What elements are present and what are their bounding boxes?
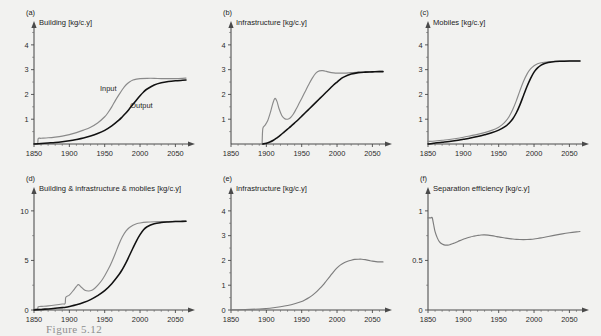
y-tick-label-f: 0.5 — [412, 256, 422, 265]
x-axis-arrow-d — [188, 307, 195, 312]
x-tick-label-b: 2000 — [329, 149, 345, 158]
panel-letter-e: (e) — [223, 174, 232, 183]
x-tick-label-e: 2050 — [364, 315, 380, 324]
y-tick-label-f: 1 — [418, 207, 422, 216]
axis-title-d: Building & infrastructure & mobiles [kg/… — [39, 184, 181, 193]
y-tick-label-e: 3 — [221, 231, 225, 240]
panel-letter-c: (c) — [420, 8, 429, 17]
chart-svg-e: (e)Infrastructure [kg/c.y]18501900195020… — [205, 170, 393, 330]
x-tick-label-d: 2050 — [167, 315, 183, 324]
x-axis-arrow-c — [582, 141, 589, 146]
x-tick-label-f: 2050 — [561, 315, 577, 324]
x-tick-label-a: 1950 — [96, 149, 112, 158]
curve-label-output: Output — [130, 101, 152, 110]
chart-svg-f: (f)Separation efficiency [kg/c.y]1850190… — [402, 170, 590, 330]
y-tick-label-d: 10 — [20, 207, 28, 216]
x-tick-label-f: 1950 — [490, 315, 506, 324]
y-tick-label-d: 5 — [24, 256, 28, 265]
series-input-d — [34, 221, 186, 309]
y-tick-label-b: 3 — [221, 65, 225, 74]
y-tick-label-c: 4 — [418, 41, 422, 50]
panel-letter-f: (f) — [420, 174, 427, 183]
x-tick-label-a: 1850 — [26, 149, 42, 158]
series-input-c — [428, 61, 580, 142]
x-tick-label-b: 1900 — [258, 149, 274, 158]
x-tick-label-c: 1850 — [420, 149, 436, 158]
axis-title-c: Mobiles [kg/c.y] — [433, 18, 485, 27]
y-tick-label-b: 4 — [221, 41, 225, 50]
y-tick-label-e: 1 — [221, 281, 225, 290]
panel-letter-d: (d) — [26, 174, 35, 183]
axis-title-a: Building [kg/c.y] — [39, 18, 92, 27]
x-tick-label-a: 2050 — [167, 149, 183, 158]
figure-caption: Figure 5.12 — [46, 323, 102, 336]
y-tick-label-d: 0 — [24, 306, 28, 315]
y-axis-arrow-f — [425, 187, 430, 194]
axis-title-b: Infrastructure [kg/c.y] — [236, 18, 307, 27]
x-tick-label-c: 1950 — [490, 149, 506, 158]
axis-title-f: Separation efficiency [kg/c.y] — [433, 184, 530, 193]
chart-svg-d: (d)Building & infrastructure & mobiles [… — [8, 170, 196, 330]
chart-svg-a: (a)Building [kg/c.y]18501900195020002050… — [8, 4, 196, 164]
y-tick-label-c: 3 — [418, 65, 422, 74]
series-output-c — [428, 61, 580, 144]
y-tick-label-a: 3 — [24, 65, 28, 74]
x-axis-arrow-a — [188, 141, 195, 146]
x-tick-label-e: 1900 — [258, 315, 274, 324]
y-axis-arrow-a — [31, 21, 36, 28]
panel-letter-b: (b) — [223, 8, 232, 17]
chart-panel-e: (e)Infrastructure [kg/c.y]18501900195020… — [205, 170, 393, 330]
y-tick-label-e: 2 — [221, 256, 225, 265]
x-tick-label-e: 1850 — [223, 315, 239, 324]
y-axis-arrow-b — [228, 21, 233, 28]
chart-panel-c: (c)Mobiles [kg/c.y]185019001950200020501… — [402, 4, 590, 164]
y-tick-label-b: 1 — [221, 115, 225, 124]
y-tick-label-e: 4 — [221, 207, 225, 216]
x-tick-label-a: 2000 — [132, 149, 148, 158]
x-tick-label-f: 1850 — [420, 315, 436, 324]
x-tick-label-c: 2000 — [526, 149, 542, 158]
x-tick-label-b: 1850 — [223, 149, 239, 158]
series-separation-efficiency-f — [428, 217, 580, 245]
y-axis-arrow-e — [228, 187, 233, 194]
y-tick-label-b: 2 — [221, 90, 225, 99]
x-tick-label-d: 2000 — [132, 315, 148, 324]
x-tick-label-e: 2000 — [329, 315, 345, 324]
y-tick-label-a: 2 — [24, 90, 28, 99]
chart-svg-c: (c)Mobiles [kg/c.y]185019001950200020501… — [402, 4, 590, 164]
x-tick-label-f: 2000 — [526, 315, 542, 324]
chart-panel-a: (a)Building [kg/c.y]18501900195020002050… — [8, 4, 196, 164]
x-tick-label-c: 1900 — [455, 149, 471, 158]
x-axis-arrow-f — [582, 307, 589, 312]
y-axis-arrow-d — [31, 187, 36, 194]
chart-panel-b: (b)Infrastructure [kg/c.y]18501900195020… — [205, 4, 393, 164]
x-tick-label-f: 1900 — [455, 315, 471, 324]
series-infrastructure-e — [231, 259, 383, 310]
x-axis-arrow-e — [385, 307, 392, 312]
series-input-b — [262, 71, 383, 144]
x-tick-label-a: 1900 — [61, 149, 77, 158]
chart-panel-f: (f)Separation efficiency [kg/c.y]1850190… — [402, 170, 590, 330]
x-tick-label-b: 2050 — [364, 149, 380, 158]
y-tick-label-c: 2 — [418, 90, 422, 99]
series-output-b — [263, 72, 383, 144]
chart-panel-d: (d)Building & infrastructure & mobiles [… — [8, 170, 196, 330]
x-axis-arrow-b — [385, 141, 392, 146]
x-tick-label-c: 2050 — [561, 149, 577, 158]
x-tick-label-d: 1850 — [26, 315, 42, 324]
axis-title-e: Infrastructure [kg/c.y] — [236, 184, 307, 193]
figure-container: (a)Building [kg/c.y]18501900195020002050… — [0, 0, 601, 336]
y-tick-label-a: 1 — [24, 115, 28, 124]
x-tick-label-e: 1950 — [293, 315, 309, 324]
x-tick-label-b: 1950 — [293, 149, 309, 158]
y-tick-label-c: 1 — [418, 115, 422, 124]
curve-label-input: Input — [100, 84, 116, 93]
y-axis-arrow-c — [425, 21, 430, 28]
y-tick-label-a: 4 — [24, 41, 28, 50]
panel-letter-a: (a) — [26, 8, 35, 17]
chart-svg-b: (b)Infrastructure [kg/c.y]18501900195020… — [205, 4, 393, 164]
y-tick-label-e: 0 — [221, 306, 225, 315]
y-tick-label-f: 0 — [418, 306, 422, 315]
